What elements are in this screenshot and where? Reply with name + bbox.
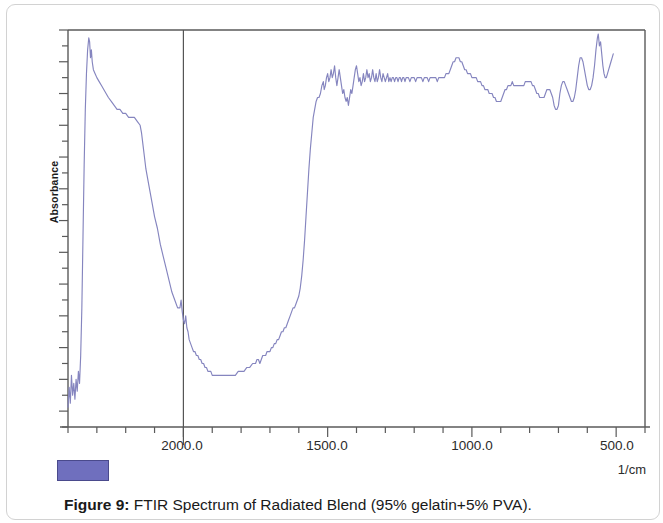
figure-caption-text: FTIR Spectrum of Radiated Blend (95% gel… <box>129 496 531 513</box>
figure-page: Absorbance 2000.0 1500.0 1000.0 500.0 1/… <box>0 0 663 523</box>
plot-frame <box>60 30 650 427</box>
x-tick-label-2000: 2000.0 <box>142 438 222 453</box>
legend-color-swatch <box>57 460 109 481</box>
figure-caption: Figure 9: FTIR Spectrum of Radiated Blen… <box>64 496 644 514</box>
figure-area: Absorbance 2000.0 1500.0 1000.0 500.0 1/… <box>0 0 663 523</box>
spectrum-trace <box>68 34 613 407</box>
x-axis-ticks <box>68 427 645 437</box>
figure-caption-label: Figure 9: <box>64 496 129 513</box>
y-axis-ticks <box>59 30 68 427</box>
x-tick-label-500: 500.0 <box>577 438 657 453</box>
x-tick-label-1000: 1000.0 <box>432 438 512 453</box>
y-axis-label: Absorbance <box>48 132 60 252</box>
ftir-spectrum-chart <box>0 0 663 470</box>
x-tick-label-1500: 1500.0 <box>287 438 367 453</box>
x-axis-unit-label: 1/cm <box>618 462 646 477</box>
